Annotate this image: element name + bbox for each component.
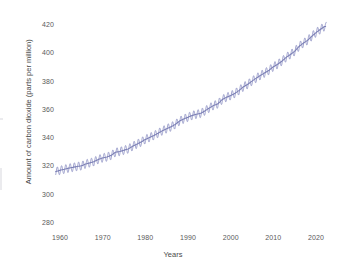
co2-monthly-line [56,22,327,174]
x-tick-1990: 1990 [173,234,203,241]
y-tick-320: 320 [32,162,54,169]
y-tick-360: 360 [32,106,54,113]
y-tick-280: 280 [32,219,54,226]
y-tick-400: 400 [32,49,54,56]
x-tick-2000: 2000 [216,234,246,241]
chart-figure: Amount of carbon dioxide (parts per mill… [0,0,338,274]
x-tick-1960: 1960 [45,234,75,241]
x-tick-2010: 2010 [258,234,288,241]
series-line-group [56,22,327,174]
y-tick-340: 340 [32,134,54,141]
x-tick-1980: 1980 [130,234,160,241]
x-tick-2020: 2020 [301,234,331,241]
y-tick-420: 420 [32,21,54,28]
co2-trend-line [56,27,326,172]
x-axis-label: Years [118,251,228,259]
y-tick-300: 300 [32,191,54,198]
x-tick-1970: 1970 [88,234,118,241]
y-tick-380: 380 [32,78,54,85]
